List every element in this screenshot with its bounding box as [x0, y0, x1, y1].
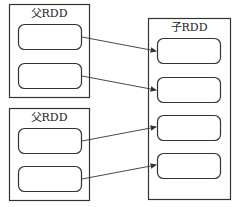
dependency-arrows — [82, 37, 156, 179]
arrow-icon — [82, 127, 156, 141]
parent-rdd-1: 父RDD — [10, 5, 90, 98]
child-rdd: 子RDD — [149, 19, 231, 200]
parent-rdd-1-label: 父RDD — [31, 7, 68, 20]
partition — [19, 25, 82, 50]
arrow-icon — [82, 165, 156, 179]
partition — [19, 64, 82, 89]
partition — [158, 116, 221, 141]
parent-rdd-2: 父RDD — [10, 109, 90, 201]
arrow-icon — [82, 37, 156, 51]
parent-rdd-2-label: 父RDD — [31, 111, 68, 124]
rdd-dependency-diagram: 父RDD 父RDD 子RDD — [0, 0, 237, 207]
partition — [19, 129, 82, 154]
partition — [19, 167, 82, 192]
child-rdd-label: 子RDD — [171, 21, 208, 34]
partition — [158, 78, 221, 103]
partition — [158, 154, 221, 179]
arrow-icon — [82, 76, 156, 90]
partition — [158, 39, 221, 64]
